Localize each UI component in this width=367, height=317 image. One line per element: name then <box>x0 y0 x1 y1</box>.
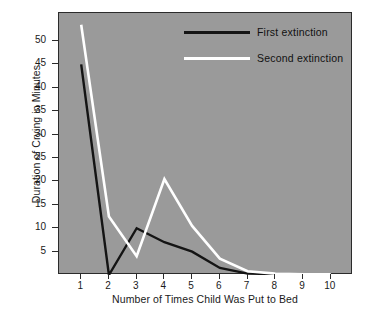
y-axis-tick-mark <box>52 227 58 228</box>
y-axis-tick-label: 15 <box>20 199 46 209</box>
x-axis-title: Number of Times Child Was Put to Bed <box>58 293 352 305</box>
legend-swatch-second-extinction <box>184 57 250 60</box>
legend-swatch-first-extinction <box>184 31 250 34</box>
y-axis-tick-label: 10 <box>20 222 46 232</box>
x-axis-tick-label: 6 <box>208 281 230 291</box>
y-axis-tick-mark <box>52 251 58 252</box>
x-axis-tick-mark <box>163 274 164 279</box>
y-axis-tick-mark <box>52 157 58 158</box>
x-axis-tick-mark <box>330 274 331 279</box>
y-axis-tick-label: 50 <box>20 35 46 45</box>
y-axis-tick-label: 20 <box>20 175 46 185</box>
x-axis-tick-label: 1 <box>69 281 91 291</box>
legend-item-first-extinction: First extinction <box>184 26 328 38</box>
x-axis-tick-label: 10 <box>319 281 341 291</box>
x-axis-tick-label: 5 <box>180 281 202 291</box>
x-axis-tick-mark <box>302 274 303 279</box>
legend-item-second-extinction: Second extinction <box>184 52 343 64</box>
y-axis-tick-mark <box>52 204 58 205</box>
y-axis-tick-mark <box>52 87 58 88</box>
x-axis-tick-label: 4 <box>152 281 174 291</box>
x-axis-tick-mark <box>219 274 220 279</box>
x-axis-tick-label: 8 <box>263 281 285 291</box>
x-axis-tick-mark <box>80 274 81 279</box>
y-axis-tick-mark <box>52 40 58 41</box>
legend-label-second-extinction: Second extinction <box>257 52 343 64</box>
legend-label-first-extinction: First extinction <box>257 26 328 38</box>
y-axis-tick-label: 45 <box>20 58 46 68</box>
x-axis-tick-label: 7 <box>236 281 258 291</box>
y-axis-tick-label: 5 <box>20 246 46 256</box>
x-axis-tick-mark <box>274 274 275 279</box>
y-axis-tick-mark <box>52 63 58 64</box>
y-axis-tick-label: 25 <box>20 152 46 162</box>
x-axis-tick-label: 9 <box>291 281 313 291</box>
y-axis-tick-label: 40 <box>20 82 46 92</box>
x-axis-tick-label: 3 <box>125 281 147 291</box>
x-axis-tick-mark <box>136 274 137 279</box>
y-axis-tick-label: 30 <box>20 129 46 139</box>
y-axis-tick-label: 35 <box>20 105 46 115</box>
y-axis-tick-mark <box>52 134 58 135</box>
x-axis-tick-mark <box>108 274 109 279</box>
x-axis-tick-mark <box>191 274 192 279</box>
y-axis-tick-mark <box>52 180 58 181</box>
x-axis-tick-mark <box>247 274 248 279</box>
line-chart-figure: Duration of Crying in Minutes 5101520253… <box>0 0 367 317</box>
x-axis-tick-label: 2 <box>97 281 119 291</box>
y-axis-tick-mark <box>52 110 58 111</box>
